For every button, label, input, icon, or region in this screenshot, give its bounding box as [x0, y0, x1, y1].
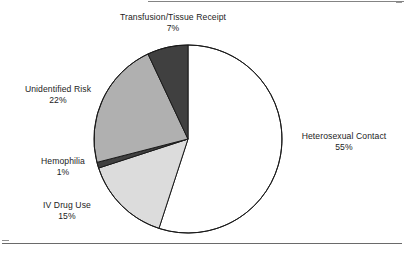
slice-label-heterosexual-contact: Heterosexual Contact 55% — [288, 131, 400, 153]
slice-label-transfusion-tissue-receipt: Transfusion/Tissue Receipt 7% — [96, 12, 250, 34]
slice-label-iv-drug-use: IV Drug Use 15% — [26, 200, 108, 222]
slice-label-name: Heterosexual Contact — [288, 131, 400, 142]
slice-label-name: Hemophilia — [18, 156, 108, 167]
slice-label-value: 15% — [26, 211, 108, 222]
slice-label-value: 55% — [288, 142, 400, 153]
slice-label-unidentified-risk: Unidentified Risk 22% — [8, 84, 108, 106]
slice-label-name: Transfusion/Tissue Receipt — [96, 12, 250, 23]
slice-label-name: IV Drug Use — [26, 200, 108, 211]
slice-label-value: 7% — [96, 23, 250, 34]
figure-canvas: Transfusion/Tissue Receipt 7% Unidentifi… — [0, 0, 404, 255]
pie-slice-group — [94, 45, 282, 233]
slice-label-value: 22% — [8, 95, 108, 106]
slice-label-value: 1% — [18, 167, 108, 178]
slice-label-hemophilia: Hemophilia 1% — [18, 156, 108, 178]
slice-label-name: Unidentified Risk — [8, 84, 108, 95]
